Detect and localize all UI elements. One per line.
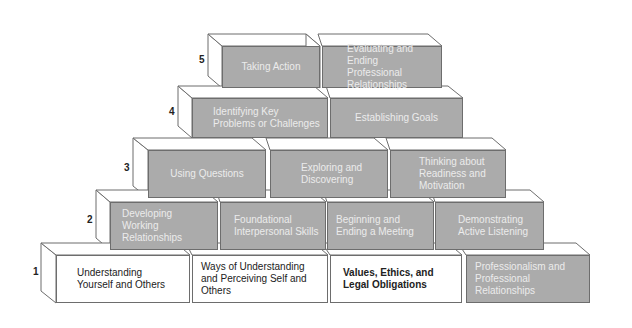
row-number-1: 1	[33, 266, 39, 277]
block-label: Understanding Yourself and Others	[77, 267, 177, 291]
block-using-questions: Using Questions	[148, 150, 266, 198]
block-evaluating-ending-relationships: Evaluating and Ending Professional Relat…	[322, 46, 442, 88]
block-ways-of-understanding: Ways of Understanding and Perceiving Sel…	[192, 255, 328, 303]
block-demonstrating-active-listening: Demonstrating Active Listening	[435, 202, 544, 250]
block-label: Exploring and Discovering	[301, 162, 371, 186]
block-label: Taking Action	[242, 61, 301, 73]
block-label: Professionalism and Professional Relatio…	[475, 261, 583, 297]
block-label: Evaluating and Ending Professional Relat…	[347, 43, 435, 91]
block-developing-working-relationships: Developing Working Relationships	[110, 202, 218, 250]
row-number-4: 4	[169, 106, 175, 117]
row-number-2: 2	[87, 214, 93, 225]
block-beginning-ending-meeting: Beginning and Ending a Meeting	[327, 202, 434, 250]
block-label: Using Questions	[170, 168, 243, 180]
block-professionalism-relationships: Professionalism and Professional Relatio…	[466, 255, 590, 303]
block-understanding-yourself-others: Understanding Yourself and Others	[56, 255, 190, 303]
block-foundational-interpersonal-skills: Foundational Interpersonal Skills	[220, 202, 326, 250]
block-label: Beginning and Ending a Meeting	[336, 214, 427, 238]
skills-pyramid-diagram: 5 4 3 2 1 Taking Action Evaluating and E…	[0, 0, 632, 328]
row-number-5: 5	[199, 54, 205, 65]
block-label: Demonstrating Active Listening	[458, 214, 537, 238]
block-establishing-goals: Establishing Goals	[330, 98, 463, 138]
block-label: Establishing Goals	[355, 112, 438, 124]
block-label: Developing Working Relationships	[122, 208, 211, 244]
block-label: Foundational Interpersonal Skills	[234, 214, 319, 238]
block-taking-action: Taking Action	[222, 46, 320, 88]
block-values-ethics-legal: Values, Ethics, and Legal Obligations	[330, 255, 462, 303]
block-label: Identifying Key Problems or Challenges	[213, 106, 321, 130]
block-thinking-readiness-motivation: Thinking about Readiness and Motivation	[390, 150, 506, 198]
block-exploring-discovering: Exploring and Discovering	[270, 150, 388, 198]
block-identifying-key-problems: Identifying Key Problems or Challenges	[192, 98, 328, 138]
block-label: Values, Ethics, and Legal Obligations	[343, 267, 455, 291]
row-number-3: 3	[124, 162, 130, 173]
block-label: Thinking about Readiness and Motivation	[419, 156, 487, 192]
block-label: Ways of Understanding and Perceiving Sel…	[201, 261, 321, 297]
